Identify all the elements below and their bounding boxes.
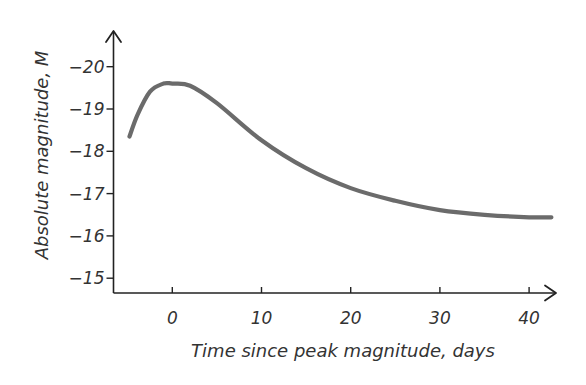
x-tick-label: 10: [251, 308, 273, 328]
y-tick-label: −15: [69, 268, 105, 288]
x-tick-label: 40: [518, 308, 540, 328]
y-tick-label: −20: [69, 57, 105, 77]
y-axis-ticks: −20−19−18−17−16−15: [69, 57, 114, 289]
x-tick-label: 20: [340, 308, 362, 328]
y-tick-label: −18: [69, 141, 105, 161]
y-tick-label: −17: [69, 184, 105, 204]
y-axis-title: Absolute magnitude, M: [31, 50, 52, 260]
x-axis-title: Time since peak magnitude, days: [191, 340, 495, 361]
y-tick-label: −16: [69, 226, 105, 246]
y-tick-label: −19: [69, 99, 105, 119]
x-tick-label: 30: [429, 308, 451, 328]
light-curve-chart: −20−19−18−17−16−15 010203040 Time since …: [0, 0, 586, 385]
x-tick-label: 0: [167, 308, 178, 328]
light-curve-line: [130, 83, 552, 218]
